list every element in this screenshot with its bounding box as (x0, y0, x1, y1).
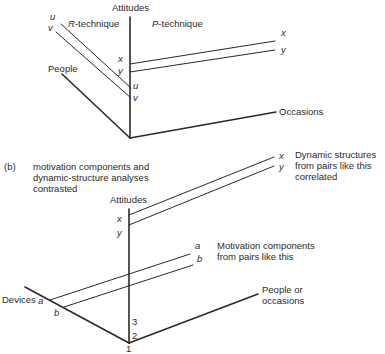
a-people-label: People (48, 63, 78, 74)
b-people-occasions-line2: occasions (262, 295, 304, 306)
b-dyn-line-y (129, 166, 274, 225)
b-x-right-label: x (279, 150, 284, 161)
b-y-axis-label: y (117, 227, 122, 238)
a-u-axis-label: u (133, 80, 138, 91)
b-panel-marker: (b) (4, 161, 16, 172)
b-caption-line3: contrasted (33, 183, 77, 194)
a-v-top-label: v (48, 22, 53, 33)
a-v-axis-label: v (133, 92, 138, 103)
b-mot-line-a (50, 254, 190, 300)
a-x-right-label: x (281, 27, 286, 38)
a-u-top-label: u (50, 11, 55, 22)
b-dynamic-line2: from pairs like this (295, 160, 372, 171)
b-motivation-line2: from pairs like this (217, 251, 294, 262)
b-dyn-line-x (129, 157, 274, 215)
b-tick-2: 2 (132, 330, 137, 341)
a-r-letter: R (68, 18, 75, 29)
b-dynamic-line3: correlated (295, 171, 337, 182)
b-tick-1: 1 (126, 343, 131, 354)
a-r-suffix: -technique (75, 18, 119, 29)
a-attitudes-label: Attitudes (112, 2, 149, 13)
a-r-technique-label: R-technique (68, 18, 119, 29)
b-tick-3: 3 (132, 316, 137, 327)
b-people-occasions-line1: People or (262, 284, 303, 295)
b-motivation-line1: Motivation components (217, 240, 315, 251)
a-p-suffix: -technique (158, 18, 202, 29)
a-y-right-label: y (281, 44, 286, 55)
b-x-axis-label: x (117, 213, 122, 224)
b-a-right-label: a (195, 240, 200, 251)
a-occasions-axis (130, 112, 276, 138)
b-attitudes-label: Attitudes (110, 194, 147, 205)
b-caption-line2: dynamic-structure analyses (33, 172, 149, 183)
b-dynamic-line1: Dynamic structures (295, 149, 376, 160)
a-people-axis (62, 74, 130, 138)
b-b-left-label: b (54, 307, 59, 318)
b-a-left-label: a (38, 295, 43, 306)
b-caption-line1: motivation components and (33, 161, 149, 172)
b-people-occasions-axis (129, 294, 258, 343)
b-y-right-label: y (279, 161, 284, 172)
b-devices-label: Devices (2, 294, 36, 305)
a-p-technique-label: P-technique (152, 18, 203, 29)
a-x-mid-label: x (118, 53, 123, 64)
a-y-mid-label: y (118, 65, 123, 76)
b-b-right-label: b (197, 253, 202, 264)
a-occasions-label: Occasions (279, 106, 323, 117)
